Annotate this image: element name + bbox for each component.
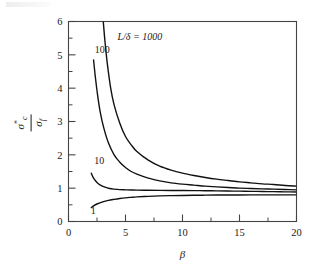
y-tick-label: 5 (57, 50, 62, 61)
x-tick-label: 10 (177, 227, 188, 238)
curve-annotation: 100 (95, 44, 110, 55)
y-axis-denominator: σf (32, 117, 47, 129)
x-tick-label: 0 (66, 227, 71, 238)
y-tick-label: 6 (57, 16, 62, 27)
x-tick-label: 5 (123, 227, 128, 238)
y-axis-fraction: σ*c σf (13, 115, 47, 132)
curve-annotation: L/δ = 1000 (117, 31, 163, 42)
series-group (91, 22, 296, 208)
series-line-100 (94, 60, 297, 190)
y-axis-numerator: σ*c (13, 115, 29, 132)
series-line-1 (91, 195, 296, 208)
curve-annotation: 10 (94, 155, 104, 166)
figure-container: 051015200123456L/δ = 1000100101β σ*c σf (0, 0, 316, 270)
series-line-1000 (103, 22, 296, 187)
y-tick-label: 4 (57, 83, 63, 94)
x-tick-label: 15 (234, 227, 245, 238)
y-tick-label: 3 (57, 116, 62, 127)
y-axis-title: σ*c σf (10, 95, 50, 151)
curve-annotation: 1 (91, 205, 96, 216)
y-tick-label: 0 (57, 216, 62, 227)
x-axis-title: β (179, 248, 186, 260)
y-tick-label: 2 (57, 150, 62, 161)
x-tick-label: 20 (291, 227, 302, 238)
y-tick-label: 1 (57, 183, 62, 194)
